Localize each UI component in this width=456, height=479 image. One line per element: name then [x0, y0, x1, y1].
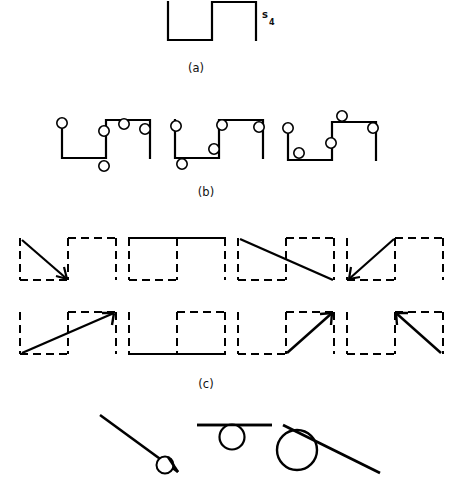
variant-1-marker	[99, 161, 109, 171]
variant-2	[171, 120, 264, 169]
cell-1-4-arrow-line	[349, 239, 394, 279]
variant-2-marker	[217, 120, 227, 130]
cell-1-3	[238, 238, 334, 280]
signal-label-subscript: 4	[269, 18, 275, 27]
cell-2-3-dashed-outline	[238, 312, 334, 354]
cell-1-4	[347, 238, 443, 280]
figure-root: s 4 (a)	[0, 0, 456, 479]
variant-3-marker	[294, 148, 304, 158]
cell-1-1-arrow-line	[22, 240, 67, 279]
square-wave-waveform	[168, 2, 256, 40]
sketch-2-circle	[220, 425, 245, 450]
variant-3-marker	[368, 123, 378, 133]
panel-d-group	[100, 415, 380, 474]
panel-c-group: (c)	[20, 238, 443, 391]
variant-1-marker	[119, 119, 129, 129]
cell-1-2-dashed-outline	[129, 238, 225, 280]
variant-2-marker	[171, 121, 181, 131]
cell-1-2	[128, 238, 226, 280]
variant-3-marker	[326, 138, 336, 148]
cell-2-4	[347, 312, 443, 354]
panel-b-group: (b)	[57, 111, 378, 199]
cell-2-4-dashed-outline	[347, 312, 443, 354]
sketch-sloped-line-large-circle	[277, 425, 380, 473]
cell-2-3-arrow-line	[287, 313, 332, 353]
cell-2-2	[128, 312, 226, 354]
cell-1-1-dashed-outline	[20, 238, 116, 280]
sketch-1-circle	[157, 457, 174, 474]
variant-2-marker	[209, 144, 219, 154]
panel-a-group: s 4 (a)	[168, 2, 275, 75]
caption-b: (b)	[198, 185, 214, 199]
variant-1-marker	[140, 124, 150, 134]
caption-a: (a)	[188, 61, 204, 75]
variant-3-marker	[283, 123, 293, 133]
cell-2-4-arrow-line	[396, 313, 441, 353]
cell-2-1	[20, 312, 116, 354]
variant-1	[57, 118, 150, 171]
signal-label-base: s	[262, 9, 268, 20]
variant-2-marker	[177, 159, 187, 169]
cell-1-4-dashed-outline	[347, 238, 443, 280]
cell-2-3	[238, 312, 334, 354]
variant-1-marker	[99, 126, 109, 136]
sketch-3-circle	[277, 430, 317, 470]
variant-1-marker	[57, 118, 67, 128]
variant-3	[283, 111, 378, 160]
cell-1-1	[20, 238, 116, 280]
caption-c: (c)	[198, 377, 213, 391]
sketch-steep-line-small-circle	[100, 415, 178, 474]
cell-2-2-dashed-outline	[129, 312, 225, 354]
figure-canvas: s 4 (a)	[0, 0, 456, 479]
sketch-horizontal-line-circle	[197, 425, 272, 450]
variant-3-marker	[337, 111, 347, 121]
variant-2-marker	[254, 122, 264, 132]
